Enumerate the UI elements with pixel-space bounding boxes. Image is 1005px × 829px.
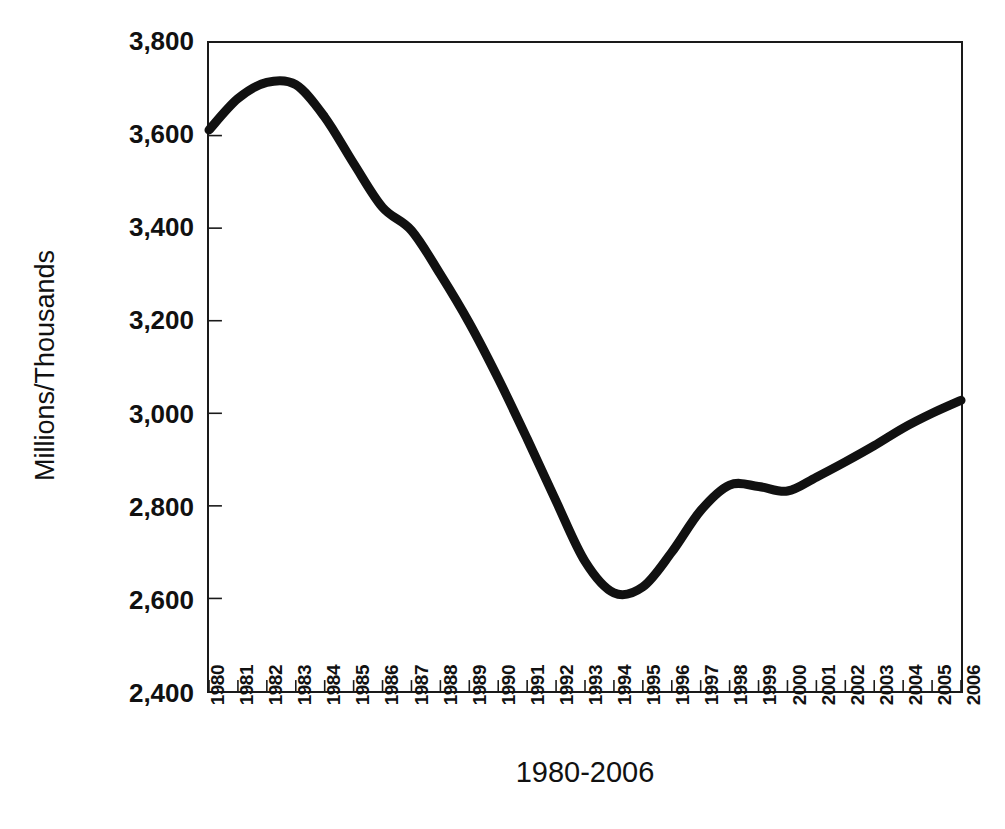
- x-tick-label: 1990: [498, 665, 520, 735]
- x-tick-label: 2006: [963, 665, 985, 735]
- x-tick-label: 1993: [585, 665, 607, 735]
- x-tick-label: 1992: [556, 665, 578, 735]
- x-tick-label: 1999: [759, 665, 781, 735]
- chart-figure: Millions/Thousands 3,8003,6003,4003,2003…: [0, 0, 1005, 829]
- x-tick-label: 1981: [236, 665, 258, 735]
- x-tick-label: 1986: [381, 665, 403, 735]
- x-tick-label: 1994: [614, 665, 636, 735]
- x-axis-title: 1980-2006: [207, 756, 963, 789]
- x-tick-label: 2004: [905, 665, 927, 735]
- x-axis-tick-labels: 1980198119821983198419851986198719881989…: [0, 0, 1005, 829]
- x-tick-label: 1991: [527, 665, 549, 735]
- x-tick-label: 1996: [672, 665, 694, 735]
- x-tick-label: 1982: [265, 665, 287, 735]
- x-tick-label: 1987: [411, 665, 433, 735]
- x-tick-label: 1989: [469, 665, 491, 735]
- x-tick-label: 1985: [352, 665, 374, 735]
- x-tick-label: 2002: [847, 665, 869, 735]
- x-tick-label: 2000: [789, 665, 811, 735]
- x-tick-label: 2005: [934, 665, 956, 735]
- x-tick-label: 1995: [643, 665, 665, 735]
- x-tick-label: 1997: [701, 665, 723, 735]
- x-tick-label: 1988: [440, 665, 462, 735]
- x-tick-label: 1998: [730, 665, 752, 735]
- x-tick-label: 1984: [323, 665, 345, 735]
- x-tick-label: 1983: [294, 665, 316, 735]
- x-tick-label: 1980: [207, 665, 229, 735]
- x-tick-label: 2001: [818, 665, 840, 735]
- x-tick-label: 2003: [876, 665, 898, 735]
